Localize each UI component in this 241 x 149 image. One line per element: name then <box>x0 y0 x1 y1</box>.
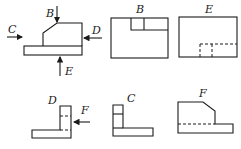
view-c-label: C <box>127 92 136 105</box>
view-b-label: B <box>135 3 144 16</box>
view-d-arrow-label: F <box>80 104 89 117</box>
label-d: D <box>91 24 101 37</box>
label-c: C <box>8 23 17 36</box>
view-b: B <box>111 3 168 58</box>
view-c: C <box>113 92 153 136</box>
view-e-label: E <box>204 3 213 16</box>
view-d-label: D <box>47 94 57 107</box>
main-part: B C D E <box>7 6 102 78</box>
label-b: B <box>45 7 54 20</box>
view-f-label: F <box>198 87 207 100</box>
view-f: F <box>178 87 233 133</box>
view-d: D F <box>32 94 90 138</box>
label-e: E <box>64 65 73 78</box>
view-e: E <box>179 3 237 57</box>
orthographic-diagram: B C D E B E D F C <box>0 0 241 149</box>
